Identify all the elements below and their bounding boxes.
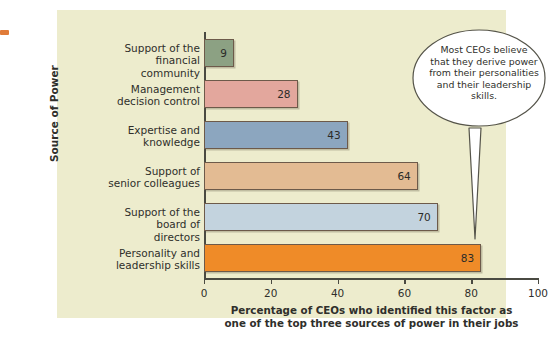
x-axis-caption-line1: Percentage of CEOs who identified this f… <box>204 304 539 317</box>
category-label-financial-community: Support of the financial community <box>108 42 200 79</box>
category-label-line1: Expertise and <box>108 124 200 136</box>
x-axis-tick <box>204 279 205 284</box>
x-axis-tick <box>338 279 339 284</box>
category-label-line2: decision control <box>108 95 200 107</box>
category-label-management-decision-control: Management decision control <box>108 83 200 108</box>
x-axis-tick <box>538 279 539 284</box>
category-label-senior-colleagues: Support of senior colleagues <box>108 165 200 190</box>
y-axis-title: Source of Power <box>48 65 60 162</box>
x-axis-tick-label: 60 <box>398 287 411 299</box>
edge-marker-icon <box>0 30 9 35</box>
category-label-line2: leadership skills <box>108 259 200 271</box>
category-label-board-of-directors: Support of the board of directors <box>108 206 200 243</box>
bar-value-label: 28 <box>277 88 290 100</box>
x-axis-tick <box>404 279 405 284</box>
category-label-line2: board of directors <box>108 218 200 243</box>
bar-senior-colleagues: 64 <box>204 162 418 190</box>
x-axis-caption: Percentage of CEOs who identified this f… <box>204 304 539 330</box>
bar-value-label: 9 <box>220 47 227 59</box>
category-label-line2: senior colleagues <box>108 177 200 189</box>
category-label-line2: financial community <box>108 54 200 79</box>
bar-board-of-directors: 70 <box>204 203 438 231</box>
category-label-line1: Management <box>108 83 200 95</box>
x-axis-line <box>204 278 539 280</box>
bar-management-decision-control: 28 <box>204 80 298 108</box>
category-label-line1: Support of the <box>108 42 200 54</box>
category-label-line1: Support of <box>108 165 200 177</box>
callout-line4: and their leadership <box>421 79 547 91</box>
category-label-line1: Personality and <box>108 247 200 259</box>
x-axis-tick-label: 0 <box>201 287 208 299</box>
x-axis-caption-line2: one of the top three sources of power in… <box>204 317 539 330</box>
x-axis-tick-label: 80 <box>465 287 478 299</box>
chart-panel: Source of Power Support of the financial… <box>57 10 506 318</box>
x-axis-tick-label: 40 <box>331 287 344 299</box>
callout-line3: from their personalities <box>421 67 547 79</box>
category-label-line2: knowledge <box>108 136 200 148</box>
x-axis-tick <box>471 279 472 284</box>
callout-line2: that they derive power <box>421 56 547 68</box>
x-axis-tick-label: 20 <box>264 287 277 299</box>
category-label-line1: Support of the <box>108 206 200 218</box>
bar-financial-community: 9 <box>204 39 234 67</box>
bar-expertise-and-knowledge: 43 <box>204 121 348 149</box>
callout-bubble-text: Most CEOs believe that they derive power… <box>421 44 547 102</box>
callout-line1: Most CEOs believe <box>421 44 547 56</box>
bar-value-label: 43 <box>327 129 340 141</box>
x-axis-tick-label: 100 <box>528 287 548 299</box>
category-label-expertise-and-knowledge: Expertise and knowledge <box>108 124 200 149</box>
category-label-personality-leadership: Personality and leadership skills <box>108 247 200 272</box>
x-axis-tick <box>271 279 272 284</box>
callout-line5: skills. <box>421 90 547 102</box>
y-axis-category-labels: Support of the financial community Manag… <box>105 32 200 278</box>
